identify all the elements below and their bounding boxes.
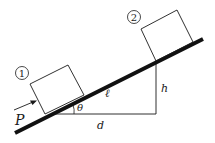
block-1	[30, 65, 84, 114]
angle-arc	[73, 105, 74, 114]
incline-surface	[15, 39, 203, 133]
force-arrow-shaft	[14, 102, 33, 110]
angle-label-theta: θ	[77, 102, 83, 113]
base-label-d: d	[97, 119, 104, 132]
height-label-h: h	[161, 82, 168, 95]
force-label-p: P	[14, 112, 25, 128]
length-label-l: ℓ	[105, 87, 110, 100]
inclined-plane-diagram: 1 2 P θ ℓ h d	[0, 0, 215, 143]
block-2	[141, 10, 193, 61]
block-1-label: 1	[19, 68, 25, 79]
block-2-label: 2	[131, 12, 137, 23]
